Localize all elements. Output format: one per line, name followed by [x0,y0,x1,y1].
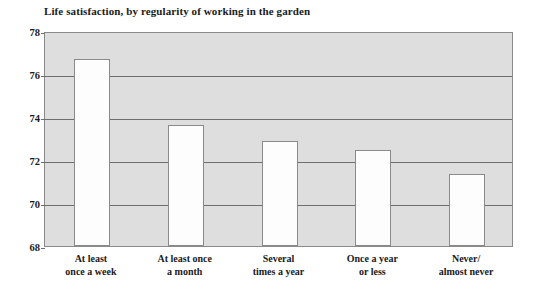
chart-container: Life satisfaction, by regularity of work… [0,0,537,293]
y-tick-label: 78 [10,27,40,38]
x-tick-label-line: Several [232,252,326,265]
x-tick-label-line: Once a year [325,252,419,265]
x-tick-label-line: once a week [44,265,138,278]
y-axis: 687072747678 [8,0,40,293]
chart-title: Life satisfaction, by regularity of work… [44,5,310,17]
x-tick-label: At leastonce a week [44,252,138,278]
bar [449,174,485,246]
y-tick-mark [41,76,45,77]
y-tick-mark [41,248,45,249]
bar [355,150,391,246]
bar [74,59,110,246]
x-tick-label-line: almost never [419,265,513,278]
x-tick-label-line: or less [325,265,419,278]
bar [262,141,298,246]
x-axis-labels: At leastonce a weekAt least oncea monthS… [44,252,513,292]
x-tick-label-line: a month [138,265,232,278]
y-tick-label: 76 [10,70,40,81]
y-tick-label: 72 [10,156,40,167]
y-tick-label: 74 [10,113,40,124]
x-tick-label: At least oncea month [138,252,232,278]
x-tick-label: Once a yearor less [325,252,419,278]
x-tick-label-line: times a year [232,265,326,278]
y-tick-label: 70 [10,199,40,210]
gridline [45,119,512,120]
x-tick-label-line: Never/ [419,252,513,265]
plot-area [44,32,513,247]
y-tick-mark [41,162,45,163]
x-tick-label: Never/almost never [419,252,513,278]
gridline [45,76,512,77]
x-tick-label-line: At least once [138,252,232,265]
y-tick-label: 68 [10,242,40,253]
y-tick-mark [41,33,45,34]
y-tick-mark [41,205,45,206]
x-tick-label-line: At least [44,252,138,265]
bar [168,125,204,246]
x-tick-label: Severaltimes a year [232,252,326,278]
y-tick-mark [41,119,45,120]
